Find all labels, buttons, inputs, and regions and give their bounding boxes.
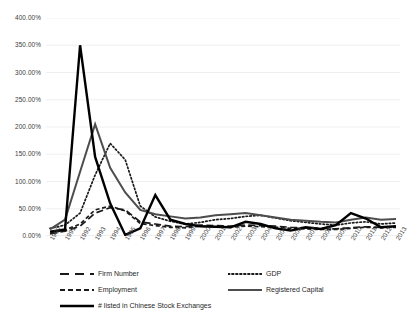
legend-swatch-icon	[60, 286, 94, 294]
y-tick-label: 150.00%	[15, 151, 41, 157]
y-tick-label: 300.00%	[15, 69, 41, 75]
legend-label: Firm Number	[98, 270, 139, 277]
legend-swatch-icon	[60, 302, 94, 310]
legend-label: Employment	[98, 286, 137, 293]
y-tick-label: 350.00%	[15, 42, 41, 48]
series-line-4	[50, 45, 396, 235]
y-tick-label: 100.00%	[15, 178, 41, 184]
legend-label: # listed in Chinese Stock Exchanges	[98, 302, 211, 309]
legend-entry[interactable]: # listed in Chinese Stock Exchanges	[60, 300, 211, 311]
chart-legend: Firm NumberGDPEmploymentRegistered Capit…	[60, 268, 400, 316]
legend-swatch-icon	[228, 286, 262, 294]
series-lines	[46, 18, 400, 236]
y-tick-label: 0.00%	[22, 233, 41, 239]
legend-entry[interactable]: Firm Number	[60, 268, 139, 279]
chart-container: 0.00%50.00%100.00%150.00%200.00%250.00%3…	[0, 0, 415, 323]
legend-swatch-icon	[228, 270, 262, 278]
legend-entry[interactable]: Employment	[60, 284, 137, 295]
y-tick-label: 250.00%	[15, 97, 41, 103]
y-tick-label: 200.00%	[15, 124, 41, 130]
y-tick-label: 50.00%	[19, 206, 41, 212]
legend-label: GDP	[266, 270, 281, 277]
legend-entry[interactable]: GDP	[228, 268, 281, 279]
y-tick-label: 400.00%	[15, 15, 41, 21]
y-axis: 0.00%50.00%100.00%150.00%200.00%250.00%3…	[0, 18, 44, 236]
legend-label: Registered Capital	[266, 286, 324, 293]
legend-entry[interactable]: Registered Capital	[228, 284, 324, 295]
plot-area	[46, 18, 400, 236]
x-axis: 1990199119921993199419951996199719981999…	[46, 238, 400, 268]
legend-swatch-icon	[60, 270, 94, 278]
